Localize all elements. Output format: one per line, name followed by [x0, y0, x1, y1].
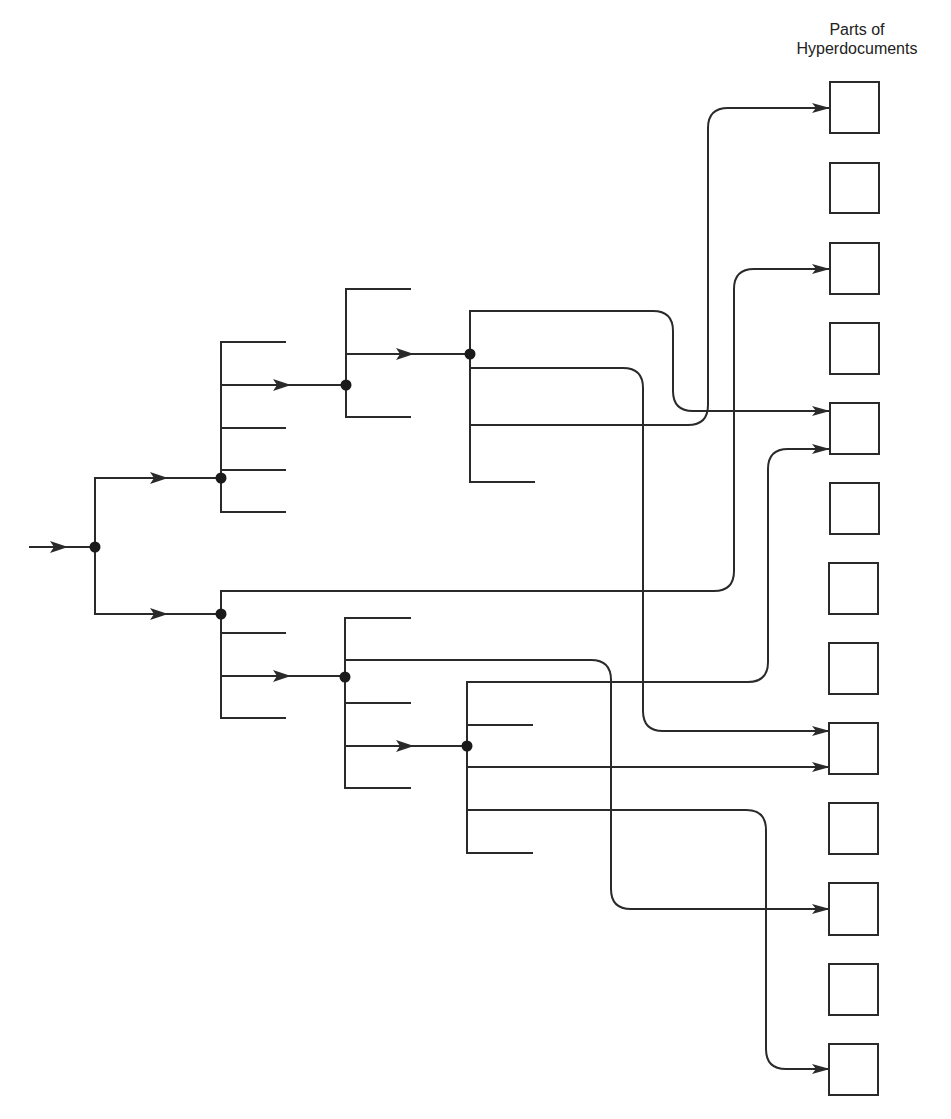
- node-c: [465, 349, 476, 360]
- part-box-6: [830, 483, 879, 534]
- node-e: [340, 672, 351, 683]
- node-d: [216, 609, 227, 620]
- node-d-branch: [221, 269, 829, 718]
- part-box-3: [830, 243, 879, 294]
- node-b: [341, 380, 352, 391]
- node-f-branch: [467, 449, 829, 1069]
- link-d-to-box-3: [221, 269, 829, 591]
- part-box-13: [829, 1044, 878, 1095]
- part-box-9: [829, 723, 878, 774]
- link-c-to-box-5: [470, 311, 829, 411]
- hyperdocument-tree-diagram: [0, 0, 951, 1119]
- root-branch: [95, 472, 221, 620]
- part-box-1: [830, 82, 879, 133]
- link-c-to-box-9: [470, 368, 829, 731]
- node-c-branch: [470, 108, 829, 731]
- part-box-12: [829, 964, 878, 1015]
- root-input-edge: [30, 541, 95, 553]
- part-box-5: [830, 403, 879, 454]
- node-e-branch: [345, 618, 829, 909]
- link-f-to-box-5: [467, 449, 829, 682]
- link-e-to-box-11: [345, 660, 829, 909]
- part-box-2: [830, 163, 879, 213]
- node-a: [216, 473, 227, 484]
- part-box-4: [830, 323, 879, 374]
- node-dots: [90, 349, 476, 752]
- part-box-10: [829, 803, 878, 854]
- node-f: [462, 741, 473, 752]
- link-f-to-box-13: [467, 810, 829, 1069]
- part-box-7: [829, 563, 878, 614]
- link-c-to-box-1: [470, 108, 829, 425]
- node-root: [90, 542, 101, 553]
- part-box-8: [829, 643, 878, 694]
- hyperdocument-parts: [829, 82, 879, 1095]
- part-box-11: [829, 883, 878, 935]
- node-a-branch: [221, 342, 346, 512]
- node-b-branch: [346, 289, 470, 417]
